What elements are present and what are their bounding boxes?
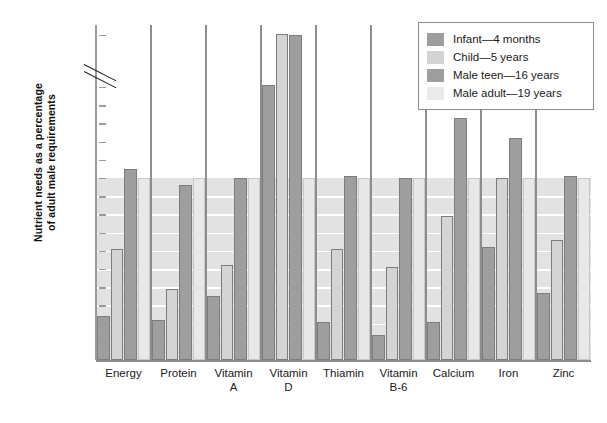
y-axis-tick	[99, 214, 106, 215]
bar-child	[496, 178, 509, 360]
bar-chart: Nutrient needs as a percentage of adult …	[0, 0, 607, 423]
legend-swatch-teen	[427, 69, 444, 82]
legend-item: Child—5 years	[427, 48, 585, 66]
y-axis-tick	[99, 287, 106, 288]
x-axis-label: Thiamin	[323, 366, 364, 380]
legend-label: Male teen—16 years	[453, 69, 559, 81]
legend-label: Male adult—19 years	[453, 87, 562, 99]
y-axis-tick	[99, 196, 106, 197]
y-axis-tick	[99, 233, 106, 234]
x-axis-label: Calcium	[433, 366, 475, 380]
y-axis-tick	[99, 251, 106, 252]
bar-infant	[317, 322, 330, 360]
bar-child	[441, 216, 454, 360]
y-axis-tick	[99, 123, 106, 124]
legend-swatch-adult	[427, 87, 444, 100]
bar-teen	[179, 185, 192, 360]
y-axis-title-line2: of adult male requirements	[44, 94, 56, 231]
x-axis-label: Zinc	[553, 366, 575, 380]
y-axis-tick	[99, 87, 106, 88]
y-axis-tick	[99, 269, 106, 270]
y-axis-tick	[99, 342, 106, 343]
x-axis-line	[96, 360, 591, 362]
bar-child	[386, 267, 399, 360]
bar-infant	[482, 247, 495, 360]
bar-adult	[193, 178, 206, 360]
y-axis-tick	[99, 324, 106, 325]
bar-infant	[537, 293, 550, 360]
bar-adult	[358, 178, 371, 360]
bar-teen	[564, 176, 577, 360]
bar-infant	[262, 85, 275, 360]
bar-teen	[454, 118, 467, 360]
y-axis-tick	[99, 142, 106, 143]
legend-label: Child—5 years	[453, 51, 528, 63]
x-axis-label: Iron	[499, 366, 519, 380]
group-separator	[205, 25, 206, 360]
bar-infant	[152, 320, 165, 360]
legend-label: Infant—4 months	[453, 33, 541, 45]
bar-infant	[427, 322, 440, 360]
group-separator	[315, 25, 316, 360]
x-axis-label: Energy	[105, 366, 141, 380]
bar-adult	[413, 178, 426, 360]
bar-teen	[289, 35, 302, 360]
axis-break-icon	[84, 53, 118, 79]
bar-teen	[344, 176, 357, 360]
y-axis-tick	[99, 105, 106, 106]
y-axis-tick	[99, 178, 106, 179]
legend-swatch-child	[427, 51, 444, 64]
bar-adult	[523, 178, 536, 360]
bar-child	[111, 249, 124, 360]
bar-child	[166, 289, 179, 360]
group-separator	[370, 25, 371, 360]
bar-teen	[234, 178, 247, 360]
y-axis-title: Nutrient needs as a percentage of adult …	[32, 53, 57, 273]
legend-item: Infant—4 months	[427, 30, 585, 48]
x-axis-label: Protein	[160, 366, 196, 380]
bar-child	[331, 249, 344, 360]
bar-teen	[399, 178, 412, 360]
bar-adult	[138, 178, 151, 360]
bar-child	[276, 34, 289, 360]
x-axis-label: Vitamin D	[269, 366, 307, 394]
legend-item: Male teen—16 years	[427, 66, 585, 84]
group-separator	[260, 25, 261, 360]
bar-adult	[248, 178, 261, 360]
y-axis-title-line1: Nutrient needs as a percentage	[32, 83, 44, 242]
x-axis-label: Vitamin A	[214, 366, 252, 394]
bar-child	[551, 240, 564, 360]
bar-adult	[468, 178, 481, 360]
bar-adult	[578, 178, 591, 360]
x-axis-label: Vitamin B-6	[379, 366, 417, 394]
y-axis-tick	[99, 35, 106, 36]
bar-teen	[509, 138, 522, 360]
bar-infant	[372, 335, 385, 360]
y-axis-tick	[99, 305, 106, 306]
bar-adult	[303, 178, 316, 360]
legend: Infant—4 monthsChild—5 yearsMale teen—16…	[418, 22, 594, 110]
bar-teen	[124, 169, 137, 360]
bar-child	[221, 265, 234, 360]
legend-item: Male adult—19 years	[427, 84, 585, 102]
bar-infant	[207, 296, 220, 360]
legend-swatch-infant	[427, 33, 444, 46]
y-axis-tick	[99, 160, 106, 161]
group-separator	[150, 25, 151, 360]
